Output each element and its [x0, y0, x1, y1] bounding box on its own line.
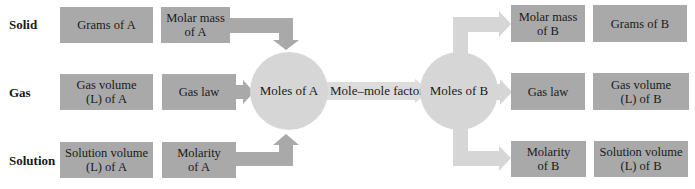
row-label-solution: Solution — [9, 153, 55, 169]
box-grams-of-a: Grams of A — [60, 7, 153, 43]
arrow-moles-b-to-molar-mass-b — [453, 11, 511, 56]
box-molar-mass-of-b: Molar mass of B — [511, 5, 585, 42]
box-molarity-of-a: Molarity of A — [162, 142, 236, 178]
arrow-molar-mass-a-to-moles-a — [230, 18, 299, 50]
box-gas-volume-of-b: Gas volume (L) of B — [593, 73, 689, 110]
box-gas-law-b: Gas law — [511, 73, 585, 110]
label-mole-mole-factor: Mole–mole factor — [330, 82, 424, 100]
box-molar-mass-of-a: Molar mass of A — [161, 7, 230, 43]
box-gas-volume-of-a: Gas volume (L) of A — [60, 74, 153, 110]
node-moles-of-a: Moles of A — [250, 52, 328, 130]
row-label-gas: Gas — [9, 85, 31, 101]
box-gas-law-a: Gas law — [162, 74, 236, 110]
box-grams-of-b: Grams of B — [593, 5, 687, 42]
box-molarity-of-b: Molarity of B — [511, 141, 586, 177]
box-solution-volume-of-b: Solution volume (L) of B — [594, 141, 688, 177]
node-moles-of-b: Moles of B — [420, 52, 498, 130]
arrow-moles-b-to-molarity-b — [453, 126, 511, 171]
row-label-solid: Solid — [9, 17, 37, 33]
arrow-molarity-a-to-moles-a — [236, 134, 299, 166]
box-solution-volume-of-a: Solution volume (L) of A — [60, 142, 153, 178]
